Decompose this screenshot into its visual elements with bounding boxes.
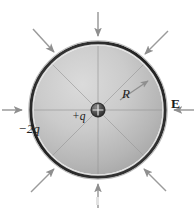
page-artifact: [96, 197, 99, 205]
field-arrow-bottom-left: [31, 169, 54, 192]
radius-label: R: [122, 87, 130, 100]
point-charge-label: +q: [72, 111, 86, 123]
field-arrow-top-left: [33, 29, 54, 52]
field-arrow-bottom-right: [144, 169, 166, 191]
shell-charge-label: −2q: [18, 122, 40, 135]
field-arrow-top-right: [145, 31, 168, 54]
figure-canvas: [0, 0, 195, 213]
point-charge: [91, 103, 105, 117]
physics-figure: −2q +q R E: [0, 0, 195, 213]
electric-field-label: E: [171, 97, 180, 111]
